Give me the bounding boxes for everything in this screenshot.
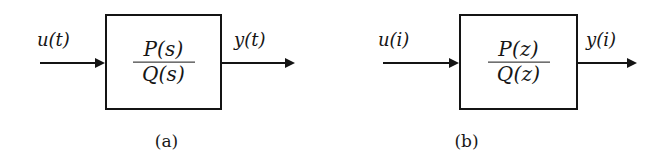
arrow-head-icon [285,58,295,68]
transfer-function-block-a: P(s) Q(s) [105,14,222,110]
arrow-head-icon [627,58,637,68]
transfer-function-fraction-a: P(s) Q(s) [107,39,220,86]
transfer-function-fraction-b: P(z) Q(z) [461,39,576,86]
input-signal-label-a: u(t) [37,29,70,50]
output-signal-label-b: y(i) [586,29,616,50]
caption-a: (a) [0,131,333,151]
arrow-head-icon [95,58,105,68]
arrow-head-icon [449,58,459,68]
denominator-b: Q(z) [461,64,576,86]
arrow-shaft [40,62,96,64]
output-arrow-a [222,58,295,68]
arrow-shaft [578,62,628,64]
block-diagram-b: u(i) P(z) Q(z) y(i) (b) [333,0,666,167]
denominator-a: Q(s) [107,64,220,86]
input-arrow-a [40,58,105,68]
block-diagram-a: u(t) P(s) Q(s) y(t) (a) [0,0,333,167]
output-arrow-b [578,58,637,68]
numerator-a: P(s) [107,39,220,61]
output-signal-label-a: y(t) [234,29,265,50]
transfer-function-block-b: P(z) Q(z) [459,14,578,110]
input-arrow-b [383,58,459,68]
arrow-shaft [222,62,286,64]
input-signal-label-b: u(i) [378,29,409,50]
figure-root: u(t) P(s) Q(s) y(t) (a) u(i) [0,0,666,167]
caption-b: (b) [300,131,633,151]
arrow-shaft [383,62,450,64]
numerator-b: P(z) [461,39,576,61]
